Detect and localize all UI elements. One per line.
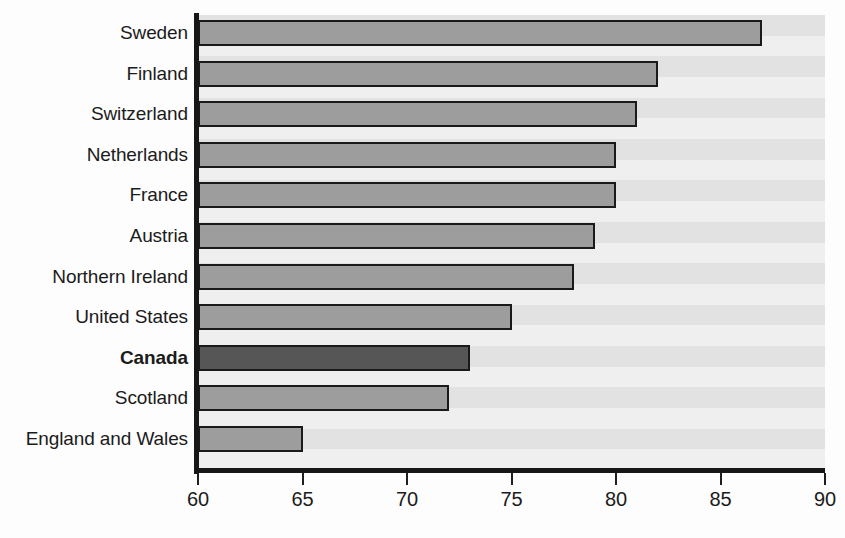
- x-tick-70: [406, 473, 408, 485]
- x-tick-75: [511, 473, 513, 485]
- category-label-netherlands: Netherlands: [0, 142, 188, 168]
- x-tick-label-75: 75: [482, 487, 542, 511]
- category-label-northern-ireland: Northern Ireland: [0, 264, 188, 290]
- category-label-sweden: Sweden: [0, 20, 188, 46]
- bar-northern-ireland: [198, 264, 574, 290]
- bar-austria: [198, 223, 595, 249]
- category-label-united-states: United States: [0, 304, 188, 330]
- x-tick-label-65: 65: [273, 487, 333, 511]
- x-tick-label-85: 85: [691, 487, 751, 511]
- bar-england-and-wales: [198, 426, 303, 452]
- bar-netherlands: [198, 142, 616, 168]
- category-label-england-and-wales: England and Wales: [0, 426, 188, 452]
- bar-switzerland: [198, 101, 637, 127]
- bar-chart: SwedenFinlandSwitzerlandNetherlandsFranc…: [0, 0, 845, 538]
- x-tick-60: [197, 473, 199, 485]
- category-label-france: France: [0, 182, 188, 208]
- bar-finland: [198, 61, 658, 87]
- x-tick-85: [720, 473, 722, 485]
- bar-canada: [198, 345, 470, 371]
- y-axis-line: [194, 13, 199, 474]
- category-label-finland: Finland: [0, 61, 188, 87]
- x-tick-label-90: 90: [795, 487, 845, 511]
- plot-area: [198, 15, 825, 470]
- bar-united-states: [198, 304, 512, 330]
- x-tick-90: [824, 473, 826, 485]
- category-label-canada: Canada: [0, 345, 188, 371]
- x-tick-label-80: 80: [586, 487, 646, 511]
- x-tick-65: [302, 473, 304, 485]
- x-tick-label-70: 70: [377, 487, 437, 511]
- category-axis-labels: SwedenFinlandSwitzerlandNetherlandsFranc…: [0, 15, 192, 470]
- category-label-switzerland: Switzerland: [0, 101, 188, 127]
- bar-scotland: [198, 385, 449, 411]
- x-tick-label-60: 60: [168, 487, 228, 511]
- x-axis-line: [194, 468, 825, 473]
- category-label-austria: Austria: [0, 223, 188, 249]
- category-label-scotland: Scotland: [0, 385, 188, 411]
- background-band: [198, 449, 825, 470]
- x-tick-80: [615, 473, 617, 485]
- bar-sweden: [198, 20, 762, 46]
- bar-france: [198, 182, 616, 208]
